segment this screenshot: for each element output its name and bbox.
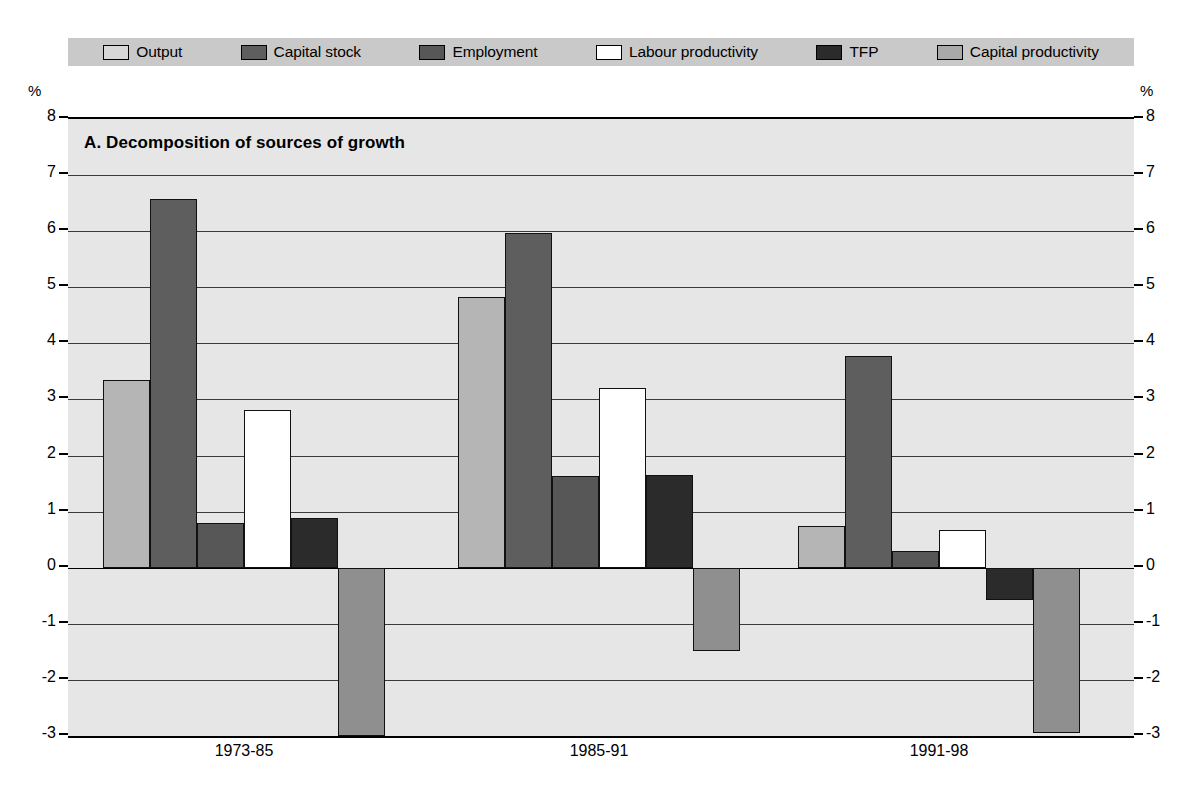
legend-item-label: Capital stock	[274, 43, 361, 61]
bar	[892, 551, 939, 568]
y-tick-label: 6	[1146, 219, 1186, 237]
left-axis-unit-label: %	[28, 82, 41, 99]
y-tick-mark	[1134, 340, 1143, 342]
bar	[197, 523, 244, 568]
right-axis-unit-label: %	[1140, 82, 1153, 99]
y-tick-label: 4	[16, 331, 56, 349]
y-tick-mark	[1134, 172, 1143, 174]
legend-item-label: Capital productivity	[970, 43, 1099, 61]
y-tick-mark	[1134, 677, 1143, 679]
bar	[291, 518, 338, 567]
bars-layer	[68, 119, 1134, 736]
y-tick-mark	[1134, 228, 1143, 230]
y-tick-mark	[59, 284, 68, 286]
y-tick-label: 8	[1146, 107, 1186, 125]
legend-item-label: Employment	[452, 43, 537, 61]
y-tick-mark	[1134, 565, 1143, 567]
y-tick-mark	[59, 621, 68, 623]
y-tick-mark	[59, 116, 68, 118]
bar	[646, 475, 693, 568]
y-tick-mark	[59, 340, 68, 342]
y-tick-mark	[59, 228, 68, 230]
y-tick-mark	[1134, 284, 1143, 286]
y-tick-label: 7	[1146, 163, 1186, 181]
legend-item[interactable]: Labour productivity	[596, 43, 758, 61]
legend-item[interactable]: Employment	[419, 43, 537, 61]
y-tick-mark	[59, 565, 68, 567]
y-tick-label: -2	[16, 668, 56, 686]
y-tick-label: 5	[16, 275, 56, 293]
y-tick-mark	[59, 677, 68, 679]
bar	[939, 530, 986, 568]
legend-item[interactable]: TFP	[816, 43, 878, 61]
bar	[798, 526, 845, 568]
x-axis-category-label: 1973-85	[215, 742, 274, 760]
y-tick-mark	[1134, 116, 1143, 118]
y-tick-label: 2	[1146, 444, 1186, 462]
y-tick-mark	[1134, 733, 1143, 735]
y-tick-label: 1	[16, 500, 56, 518]
bar	[338, 568, 385, 736]
y-tick-mark	[1134, 509, 1143, 511]
y-tick-label: 0	[16, 556, 56, 574]
y-tick-label: 1	[1146, 500, 1186, 518]
chart-page: OutputCapital stockEmploymentLabour prod…	[0, 0, 1202, 803]
plot-area: A. Decomposition of sources of growth	[68, 117, 1134, 738]
y-tick-label: -3	[1146, 724, 1186, 742]
legend-swatch-icon	[103, 45, 129, 60]
legend-item-label: TFP	[849, 43, 878, 61]
legend-item[interactable]: Capital stock	[241, 43, 361, 61]
bar	[599, 388, 646, 567]
y-tick-label: -2	[1146, 668, 1186, 686]
bar	[505, 233, 552, 568]
legend-swatch-icon	[596, 45, 622, 60]
x-axis-labels: 1973-851985-911991-98	[68, 742, 1134, 768]
x-axis-category-label: 1985-91	[570, 742, 629, 760]
legend-swatch-icon	[419, 45, 445, 60]
y-tick-label: -1	[16, 612, 56, 630]
bar	[244, 410, 291, 568]
y-tick-label: 4	[1146, 331, 1186, 349]
y-tick-mark	[59, 453, 68, 455]
legend-item-label: Labour productivity	[629, 43, 758, 61]
bar	[1033, 568, 1080, 733]
y-tick-mark	[59, 733, 68, 735]
y-tick-label: 3	[16, 387, 56, 405]
y-tick-label: -1	[1146, 612, 1186, 630]
bar	[103, 380, 150, 568]
legend-item[interactable]: Output	[103, 43, 182, 61]
y-tick-label: 2	[16, 444, 56, 462]
y-tick-label: 7	[16, 163, 56, 181]
legend-swatch-icon	[816, 45, 842, 60]
y-tick-label: 0	[1146, 556, 1186, 574]
chart-legend: OutputCapital stockEmploymentLabour prod…	[68, 38, 1134, 66]
legend-swatch-icon	[937, 45, 963, 60]
y-tick-mark	[1134, 621, 1143, 623]
y-tick-mark	[1134, 396, 1143, 398]
bar	[150, 199, 197, 568]
y-tick-mark	[59, 396, 68, 398]
y-tick-label: 6	[16, 219, 56, 237]
y-tick-label: 3	[1146, 387, 1186, 405]
y-tick-mark	[1134, 453, 1143, 455]
legend-swatch-icon	[241, 45, 267, 60]
y-tick-label: 8	[16, 107, 56, 125]
y-tick-mark	[59, 509, 68, 511]
bar	[845, 356, 892, 568]
y-tick-label: -3	[16, 724, 56, 742]
bar	[552, 476, 599, 567]
y-tick-label: 5	[1146, 275, 1186, 293]
bar	[458, 297, 505, 567]
x-axis-category-label: 1991-98	[910, 742, 969, 760]
legend-item-label: Output	[136, 43, 182, 61]
y-tick-mark	[59, 172, 68, 174]
bar	[986, 568, 1033, 600]
bar	[693, 568, 740, 651]
legend-item[interactable]: Capital productivity	[937, 43, 1099, 61]
